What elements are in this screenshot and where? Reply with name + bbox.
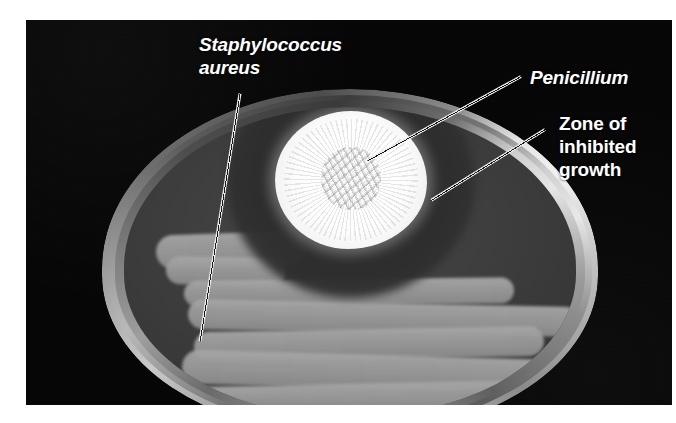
label-zone-of-inhibited-growth: Zone of inhibited growth: [559, 112, 636, 181]
label-penicillium: Penicillium: [530, 66, 628, 89]
label-staphylococcus-aureus: Staphylococcus aureus: [199, 33, 342, 79]
figure-root: Staphylococcus aureus Penicillium Zone o…: [0, 0, 676, 423]
petri-dish: [102, 89, 598, 405]
photograph-plate: Staphylococcus aureus Penicillium Zone o…: [26, 20, 672, 405]
penicillium-colony: [275, 111, 427, 249]
